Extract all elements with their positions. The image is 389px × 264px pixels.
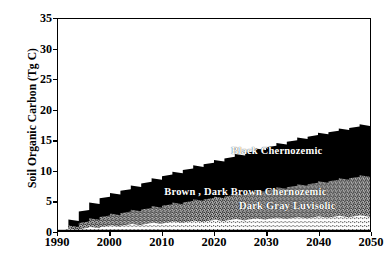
y-tick-mark — [53, 79, 57, 80]
soil-organic-carbon-chart: Soil Organic Carbon (Tg C) 0510152025303… — [0, 0, 389, 264]
y-tick-label: 5 — [26, 195, 52, 207]
x-tick-label: 2000 — [83, 236, 135, 249]
x-tick-mark — [214, 232, 215, 236]
x-tick-label: 2030 — [240, 236, 292, 249]
baseline — [58, 230, 370, 231]
x-tick-label: 2020 — [188, 236, 240, 249]
y-tick-label: 30 — [26, 43, 52, 55]
y-tick-mark — [53, 171, 57, 172]
y-tick-label: 20 — [26, 104, 52, 116]
x-tick-label: 2010 — [136, 236, 188, 249]
series-label: Dark Gray Luvisolic — [239, 200, 336, 211]
y-tick-mark — [53, 18, 57, 19]
x-tick-mark — [162, 232, 163, 236]
series-label: Black Chernozemic — [231, 145, 322, 156]
y-tick-label: 15 — [26, 134, 52, 146]
x-tick-mark — [57, 232, 58, 236]
x-tick-mark — [109, 232, 110, 236]
y-tick-label: 10 — [26, 165, 52, 177]
y-tick-mark — [53, 49, 57, 50]
x-tick-mark — [266, 232, 267, 236]
x-tick-label: 1990 — [31, 236, 83, 249]
x-tick-mark — [371, 232, 372, 236]
y-tick-mark — [53, 201, 57, 202]
y-tick-label: 35 — [26, 12, 52, 24]
series-label: Brown , Dark Brown Chernozemic — [164, 186, 326, 197]
x-tick-label: 2040 — [293, 236, 345, 249]
y-axis-tick-labels: 05101520253035 — [26, 0, 52, 264]
y-tick-mark — [53, 110, 57, 111]
x-tick-mark — [319, 232, 320, 236]
y-tick-label: 25 — [26, 73, 52, 85]
y-tick-mark — [53, 140, 57, 141]
x-tick-label: 2050 — [345, 236, 389, 249]
